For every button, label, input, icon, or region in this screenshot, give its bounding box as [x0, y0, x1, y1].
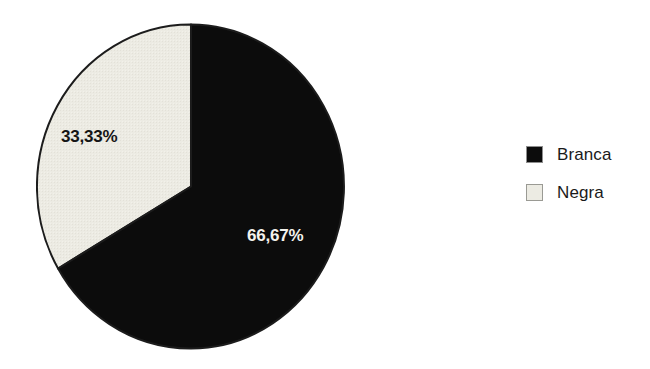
pie-chart-plot-area [36, 23, 346, 350]
legend-label-negra: Negra [557, 184, 604, 201]
pie-slice-label-negra: 33,33% [61, 128, 117, 145]
light-swatch-icon [526, 184, 543, 201]
pie-chart-figure: 33,33% 66,67% Branca Negra [0, 0, 650, 369]
pie-slice-label-branca: 66,67% [247, 227, 303, 244]
legend-item-branca[interactable]: Branca [526, 146, 611, 163]
pie-graphic [36, 23, 346, 350]
legend: Branca Negra [526, 146, 611, 201]
legend-label-branca: Branca [557, 146, 611, 163]
dark-swatch-icon [526, 146, 543, 163]
legend-item-negra[interactable]: Negra [526, 184, 611, 201]
